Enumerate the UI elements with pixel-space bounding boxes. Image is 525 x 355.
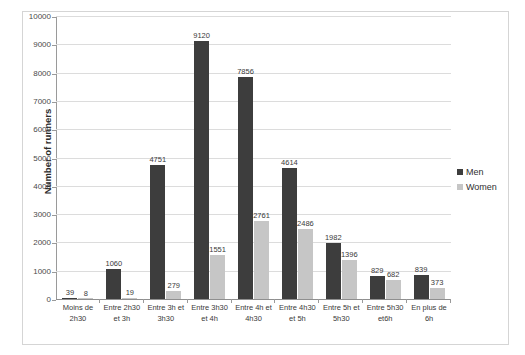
y-axis-tick-label: 9000 xyxy=(33,41,51,49)
x-axis-tick-label: Entre 3h30et 4h xyxy=(188,303,232,324)
x-axis-tick-label: Entre 5h30et6h xyxy=(363,303,407,324)
bar-pair: 91201551 xyxy=(188,16,232,299)
bar-group: 106019 xyxy=(100,16,144,299)
bar-group: 4751279 xyxy=(144,16,188,299)
bar-men[interactable]: 9120 xyxy=(194,16,209,299)
bar-men[interactable]: 829 xyxy=(370,16,385,299)
bar-rect[interactable] xyxy=(194,41,209,299)
bar-rect[interactable] xyxy=(414,275,429,299)
bar-group: 398 xyxy=(56,16,100,299)
bar-pair: 4751279 xyxy=(144,16,188,299)
bar-rect[interactable] xyxy=(62,298,77,299)
y-axis-tick-mark xyxy=(52,300,56,301)
bar-women[interactable]: 279 xyxy=(166,16,181,299)
bar-women[interactable]: 19 xyxy=(122,16,137,299)
bar-rect[interactable] xyxy=(122,298,137,299)
bar-value-label: 8 xyxy=(84,290,88,298)
y-axis-tick-label: 4000 xyxy=(33,183,51,191)
bar-group: 46142486 xyxy=(275,16,319,299)
bar-value-label: 682 xyxy=(387,271,400,279)
y-axis-tick-label: 1000 xyxy=(33,268,51,276)
bar-rect[interactable] xyxy=(254,221,269,299)
bar-value-label: 373 xyxy=(431,279,444,287)
legend-item-men[interactable]: Men xyxy=(457,164,497,179)
bar-men[interactable]: 4614 xyxy=(282,16,297,299)
y-axis-tick-label: 2000 xyxy=(33,239,51,247)
bar-rect[interactable] xyxy=(342,260,357,300)
legend-label: Men xyxy=(466,167,484,177)
bar-men[interactable]: 4751 xyxy=(150,16,165,299)
bar-women[interactable]: 2761 xyxy=(254,16,269,299)
bar-women[interactable]: 1551 xyxy=(210,16,225,299)
bar-rect[interactable] xyxy=(150,165,165,299)
bar-pair: 829682 xyxy=(363,16,407,299)
bar-value-label: 279 xyxy=(167,282,180,290)
bar-pair: 78562761 xyxy=(232,16,276,299)
bar-rect[interactable] xyxy=(430,288,445,299)
legend-swatch-men xyxy=(457,169,463,175)
bar-group: 839373 xyxy=(407,16,451,299)
bar-rect[interactable] xyxy=(106,269,121,299)
bar-men[interactable]: 1060 xyxy=(106,16,121,299)
bar-value-label: 1396 xyxy=(341,251,358,259)
bar-rect[interactable] xyxy=(370,276,385,299)
bar-women[interactable]: 682 xyxy=(386,16,401,299)
y-axis-tick-label: 8000 xyxy=(33,70,51,78)
y-axis-tick-label: 6000 xyxy=(33,126,51,134)
x-axis-tick-labels: Moins de2h30Entre 2h30et 3hEntre 3h et3h… xyxy=(56,303,451,324)
bar-rect[interactable] xyxy=(326,243,341,299)
bar-value-label: 7856 xyxy=(237,68,254,76)
bar-men[interactable]: 1982 xyxy=(326,16,341,299)
legend-item-women[interactable]: Women xyxy=(457,179,497,194)
bar-group: 91201551 xyxy=(188,16,232,299)
bar-value-label: 4751 xyxy=(149,156,166,164)
bar-rect[interactable] xyxy=(210,255,225,299)
bar-women[interactable]: 1396 xyxy=(342,16,357,299)
legend-label: Women xyxy=(466,182,497,192)
bar-pair: 398 xyxy=(56,16,100,299)
bar-rect[interactable] xyxy=(386,280,401,299)
bar-rect[interactable] xyxy=(282,168,297,299)
bar-value-label: 829 xyxy=(371,267,384,275)
bar-pair: 19821396 xyxy=(319,16,363,299)
bar-men[interactable]: 39 xyxy=(62,16,77,299)
x-axis-tick-label: Entre 5h et5h30 xyxy=(319,303,363,324)
x-axis-tick-label: Entre 2h30et 3h xyxy=(100,303,144,324)
bar-women[interactable]: 373 xyxy=(430,16,445,299)
y-axis-title: Number of runners xyxy=(42,92,53,212)
bar-value-label: 9120 xyxy=(193,32,210,40)
x-axis-tick-label: Entre 3h et3h30 xyxy=(144,303,188,324)
bar-group: 829682 xyxy=(363,16,407,299)
bar-value-label: 19 xyxy=(126,289,134,297)
x-axis-tick-label: En plus de6h xyxy=(407,303,451,324)
bar-value-label: 1982 xyxy=(325,234,342,242)
bar-group: 19821396 xyxy=(319,16,363,299)
bar-value-label: 2486 xyxy=(297,220,314,228)
x-axis-tick-label: Entre 4h30et 5h xyxy=(275,303,319,324)
x-axis-tick-label: Moins de2h30 xyxy=(56,303,100,324)
legend-swatch-women xyxy=(457,184,463,190)
bar-rect[interactable] xyxy=(298,229,313,299)
bar-rect[interactable] xyxy=(238,77,253,299)
x-axis-tick-label: Entre 4h et4h30 xyxy=(232,303,276,324)
bar-value-label: 1551 xyxy=(209,246,226,254)
bar-rect[interactable] xyxy=(78,298,93,299)
y-axis-tick-label: 7000 xyxy=(33,98,51,106)
bar-value-label: 839 xyxy=(415,266,428,274)
y-axis-tick-label: 0 xyxy=(47,296,51,304)
bar-women[interactable]: 2486 xyxy=(298,16,313,299)
y-axis-tick-label: 3000 xyxy=(33,211,51,219)
bar-value-label: 1060 xyxy=(105,260,122,268)
bar-men[interactable]: 839 xyxy=(414,16,429,299)
chart-frame: Number of runners 0100020003000400050006… xyxy=(22,11,509,345)
bar-women[interactable]: 8 xyxy=(78,16,93,299)
chart-legend: MenWomen xyxy=(457,164,497,194)
gridline-0: 0 xyxy=(56,299,451,300)
bar-value-label: 4614 xyxy=(281,159,298,167)
bar-value-label: 2761 xyxy=(253,212,270,220)
bar-men[interactable]: 7856 xyxy=(238,16,253,299)
bar-rect[interactable] xyxy=(166,291,181,299)
bar-pair: 106019 xyxy=(100,16,144,299)
plot-area: 0100020003000400050006000700080009000100… xyxy=(56,16,451,299)
bar-pair: 46142486 xyxy=(275,16,319,299)
